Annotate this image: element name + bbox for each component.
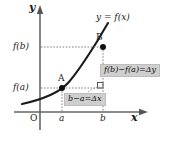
right-angle-marker: [98, 83, 104, 89]
delta-y-callout: f(b)−f(a)=Δy: [100, 64, 160, 77]
origin-label: O: [30, 114, 37, 123]
y-tick-label-fb: f(b): [13, 42, 29, 51]
x-tick-label-a: a: [59, 114, 64, 123]
x-axis-label: x: [131, 112, 138, 123]
x-tick-label-b: b: [100, 114, 106, 123]
point-b-marker: [100, 44, 106, 50]
y-axis-label: y: [29, 2, 35, 13]
y-tick-label-fa: f(a): [13, 83, 29, 92]
point-b-label: B: [96, 33, 103, 42]
curve-label: y = f(x): [96, 13, 130, 22]
point-a-marker: [59, 85, 65, 91]
point-a-label: A: [58, 74, 65, 83]
x-axis-arrowhead: [139, 109, 148, 115]
delta-x-callout: b−a=Δx: [64, 93, 106, 106]
math-diagram: y x O y = f(x) f(b) f(a) a b A B f(b)−f(…: [0, 0, 182, 145]
y-axis-arrowhead: [37, 5, 43, 14]
